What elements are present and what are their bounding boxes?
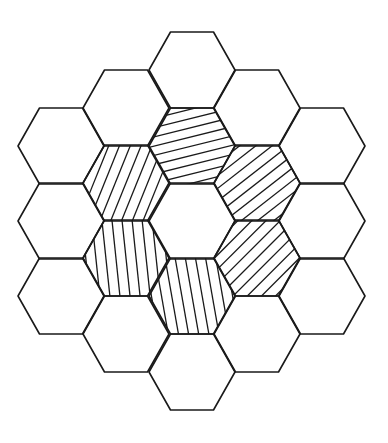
hexagon-grid-canvas: [0, 0, 388, 443]
hexagon-outline: [214, 296, 300, 372]
hexagon-outline: [279, 258, 365, 334]
blank-hexagon-cell: [18, 258, 104, 334]
hexagon-cluster-diagram: [0, 0, 388, 443]
blank-hexagon-cell: [279, 258, 365, 334]
blank-hexagon-cell: [214, 70, 300, 146]
blank-hexagon-cell: [18, 108, 104, 184]
blank-hexagon-cell: [279, 108, 365, 184]
blank-hexagon-cell: [214, 296, 300, 372]
hexagon-outline: [18, 258, 104, 334]
blank-hexagon-cell: [18, 183, 104, 259]
hexagon-outline: [18, 183, 104, 259]
hexagon-outline: [18, 108, 104, 184]
hexagon-outline: [214, 70, 300, 146]
hexagon-outline: [279, 108, 365, 184]
hexagon-cells: [18, 32, 365, 410]
